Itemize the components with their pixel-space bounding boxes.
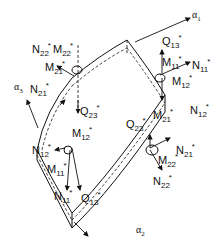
label-M21-center: M21*	[153, 108, 173, 124]
label-M11-left: M11*	[47, 162, 67, 178]
label-M12-left: M12*	[72, 126, 92, 142]
shell-element-diagram	[0, 0, 220, 248]
label-N11-bottom: N11*	[54, 189, 72, 205]
label-N22-bottom: N22*	[153, 174, 172, 190]
axis-label-a2: α2	[136, 225, 145, 238]
label-Q13-top: Q13*	[162, 34, 182, 50]
axis-a3-arrow	[27, 100, 38, 128]
label-Q23-left: Q23*	[80, 104, 100, 120]
label-N12-left: N12*	[32, 143, 51, 159]
axis-label-a1: α1	[192, 10, 201, 23]
label-N22-top: N22*	[32, 42, 51, 58]
label-N11-right: N11*	[192, 58, 210, 74]
axis-label-a3: α3	[14, 82, 23, 95]
label-M11-right: M11*	[162, 55, 182, 71]
label-N21-left: N21*	[30, 82, 49, 98]
label-M12-right: M12*	[172, 74, 192, 90]
label-Q23-center: Q23*	[126, 117, 146, 133]
label-Q13-bottom: Q13*	[81, 191, 101, 207]
label-N21-right: N21*	[176, 143, 195, 159]
label-N12-right: N12*	[190, 103, 209, 119]
label-M22-top: M22*	[53, 42, 73, 58]
label-M22-bottom: M22*	[158, 153, 178, 169]
axis-a2-arrow	[74, 222, 88, 236]
label-M21-top: M21*	[45, 60, 65, 76]
